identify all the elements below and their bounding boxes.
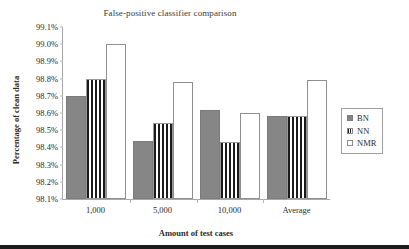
bar-nmr-10000[interactable] [240, 113, 260, 199]
x-axis-tick-labels: 1,0005,00010,000Average [62, 205, 330, 215]
y-axis-tick-label: 98.8% [36, 74, 63, 84]
bar-nn-10000[interactable] [220, 142, 240, 199]
bar-bn-average[interactable] [267, 116, 287, 199]
bar-groups [63, 27, 330, 199]
y-axis-tick-label: 99.0% [36, 39, 63, 49]
y-axis-tick-label: 98.1% [36, 194, 63, 204]
bar-group [130, 27, 197, 199]
y-axis-tick-label: 99.1% [36, 22, 63, 32]
legend-item-label: NN [357, 127, 369, 136]
plot-area: 99.1%99.0%98.9%98.8%98.7%98.6%98.5%98.4%… [62, 27, 330, 200]
chart-legend: BNNNNMR [341, 108, 383, 154]
x-axis-tick-label: 5,000 [129, 205, 196, 215]
y-axis-tick-label: 98.7% [36, 91, 63, 101]
x-axis-tick-label: 10,000 [196, 205, 263, 215]
legend-item-label: NMR [357, 139, 376, 148]
legend-swatch-bn-icon [347, 115, 353, 121]
bar-group [263, 27, 330, 199]
legend-item-nn[interactable]: NN [347, 127, 376, 136]
bar-nmr-5000[interactable] [173, 82, 193, 199]
bar-bn-10000[interactable] [200, 110, 220, 199]
y-axis-tick-label: 98.6% [36, 108, 63, 118]
y-axis-tick-label: 98.2% [36, 177, 63, 187]
y-axis-title: Percentage of clean data [8, 40, 24, 200]
bar-nn-1000[interactable] [86, 79, 106, 199]
y-axis-tick-label: 98.5% [36, 125, 63, 135]
x-axis-title: Amount of test cases [62, 228, 330, 238]
bar-bn-5000[interactable] [133, 141, 153, 199]
x-axis-tick-label: 1,000 [62, 205, 129, 215]
legend-swatch-nn-icon [347, 128, 353, 134]
y-axis-tick-label: 98.3% [36, 160, 63, 170]
chart-figure: False-positive classifier comparison Per… [0, 0, 409, 249]
bar-nn-5000[interactable] [153, 123, 173, 199]
bottom-divider [0, 245, 409, 249]
chart-title: False-positive classifier comparison [0, 8, 340, 18]
bar-nmr-1000[interactable] [106, 44, 126, 199]
legend-swatch-nmr-icon [347, 140, 353, 146]
legend-item-label: BN [357, 114, 369, 123]
y-axis-title-label: Percentage of clean data [11, 76, 21, 164]
y-axis-tick-label: 98.9% [36, 56, 63, 66]
bar-nn-average[interactable] [287, 116, 307, 199]
bar-bn-1000[interactable] [66, 96, 86, 199]
x-axis-tick-label: Average [263, 205, 330, 215]
legend-item-bn[interactable]: BN [347, 114, 376, 123]
bar-group [197, 27, 264, 199]
bar-group [63, 27, 130, 199]
y-axis-tick-label: 98.4% [36, 142, 63, 152]
bar-nmr-average[interactable] [307, 80, 327, 199]
legend-item-nmr[interactable]: NMR [347, 139, 376, 148]
